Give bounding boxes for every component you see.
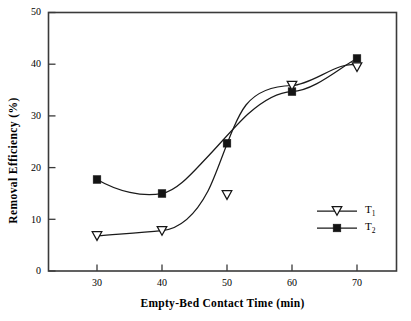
legend-label-t2-sub: 2 — [372, 226, 376, 235]
legend-label-t1-base: T — [365, 203, 372, 215]
legend-label-t2-base: T — [365, 220, 372, 232]
legend-item-t1: T1 — [316, 202, 375, 219]
y-axis-ticks — [49, 13, 56, 272]
chart-legend: T1 T2 — [316, 202, 375, 236]
x-axis-ticks — [97, 265, 357, 272]
legend-label-t2: T2 — [365, 220, 375, 235]
legend-label-t1: T1 — [365, 203, 375, 218]
square-filled-icon — [333, 224, 341, 232]
x-axis-title: Empty-Bed Contact Time (min) — [48, 297, 397, 309]
legend-item-t2: T2 — [316, 219, 375, 236]
plot-area — [0, 0, 411, 321]
legend-sample-t1 — [316, 203, 358, 219]
series-t2-line — [97, 59, 357, 195]
legend-sample-t2 — [316, 220, 358, 236]
legend-label-t1-sub: 1 — [372, 209, 376, 218]
chart-figure: Removal Efficiency (%) 50 40 30 20 10 0 … — [0, 0, 411, 321]
